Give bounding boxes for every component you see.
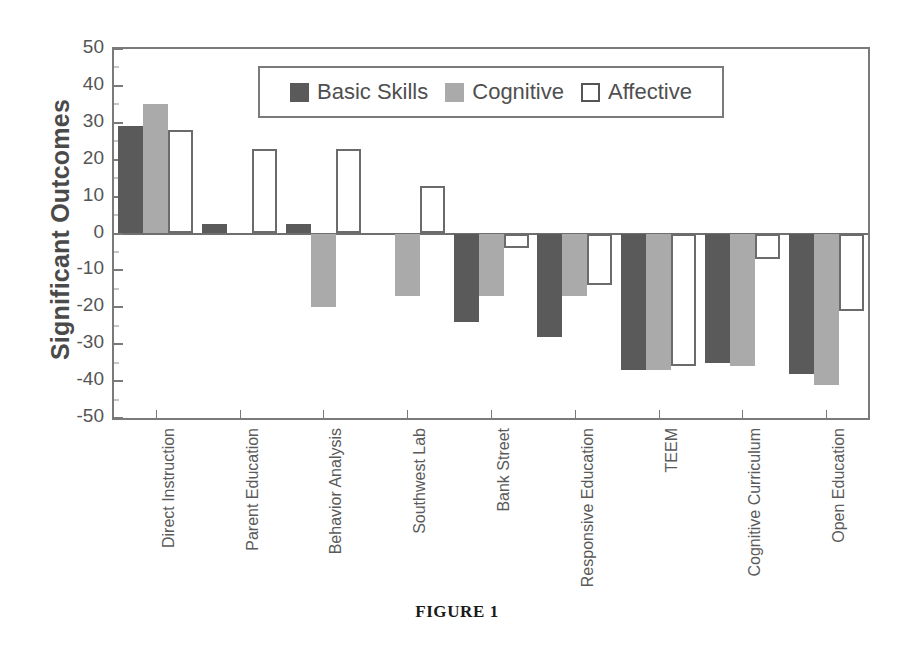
y-tick-mark [114, 85, 123, 87]
bar [336, 149, 361, 234]
y-tick-mark [114, 343, 123, 345]
y-tick-label: 0 [44, 221, 104, 243]
y-minor-tick-mark [114, 288, 119, 289]
y-tick-label: -40 [44, 368, 104, 390]
y-tick-label: 20 [44, 147, 104, 169]
x-category-label: Responsive Education [579, 428, 597, 587]
bar [454, 234, 479, 323]
x-tick-mark [407, 410, 408, 418]
x-tick-mark [156, 410, 157, 418]
y-minor-tick-mark [114, 362, 119, 363]
legend-swatch-cognitive-icon [445, 83, 464, 102]
legend-label-affective: Affective [608, 79, 692, 105]
y-minor-tick-mark [114, 251, 119, 252]
y-tick-label: 50 [44, 36, 104, 58]
x-tick-mark [742, 410, 743, 418]
chart-legend: Basic Skills Cognitive Affective [258, 66, 724, 118]
y-tick-mark [114, 306, 123, 308]
legend-swatch-basic-skills-icon [290, 83, 309, 102]
legend-label-cognitive: Cognitive [472, 79, 564, 105]
y-minor-tick-mark [114, 104, 119, 105]
figure-container: Significant Outcomes 50403020100-10-20-3… [0, 0, 914, 645]
bar [286, 224, 311, 233]
bar [420, 186, 445, 234]
bar [562, 234, 587, 297]
bar [479, 234, 504, 297]
y-minor-tick-mark [114, 399, 119, 400]
x-category-label: Bank Street [495, 428, 513, 512]
x-category-label: Open Education [830, 428, 848, 543]
y-tick-label: 40 [44, 73, 104, 95]
y-tick-label: -10 [44, 257, 104, 279]
x-category-label: Southwest Lab [411, 428, 429, 534]
x-tick-mark [575, 410, 576, 418]
bar [252, 149, 277, 234]
bar [168, 130, 193, 233]
x-tick-mark [491, 410, 492, 418]
y-tick-mark [114, 269, 123, 271]
bar [646, 234, 671, 371]
x-tick-mark [826, 410, 827, 418]
bar [705, 234, 730, 363]
y-tick-mark [114, 48, 123, 50]
x-category-label: Direct Instruction [160, 428, 178, 548]
y-tick-label: 10 [44, 184, 104, 206]
y-tick-mark [114, 122, 123, 124]
y-tick-mark [114, 380, 123, 382]
bar [118, 126, 143, 233]
bar [621, 234, 646, 371]
y-tick-mark [114, 417, 123, 419]
x-tick-mark [659, 410, 660, 418]
x-category-label: Cognitive Curriculum [746, 428, 764, 577]
bar [789, 234, 814, 374]
bar [202, 224, 227, 233]
x-tick-mark [323, 410, 324, 418]
bar [504, 234, 529, 249]
bar [537, 234, 562, 337]
x-category-label: Behavior Analysis [327, 428, 345, 554]
bar [587, 234, 612, 286]
legend-label-basic-skills: Basic Skills [317, 79, 428, 105]
bar [814, 234, 839, 385]
legend-entry-cognitive: Cognitive [445, 79, 564, 105]
y-minor-tick-mark [114, 325, 119, 326]
y-minor-tick-mark [114, 67, 119, 68]
legend-swatch-affective-icon [581, 83, 600, 102]
bar [730, 234, 755, 367]
bar [839, 234, 864, 311]
y-tick-label: -50 [44, 405, 104, 427]
bar [671, 234, 696, 367]
legend-entry-basic-skills: Basic Skills [290, 79, 428, 105]
legend-entry-affective: Affective [581, 79, 692, 105]
x-tick-mark [240, 410, 241, 418]
bar [755, 234, 780, 260]
figure-caption: FIGURE 1 [0, 602, 914, 622]
x-category-label: Parent Education [244, 428, 262, 551]
bar [395, 234, 420, 297]
y-tick-label: 30 [44, 110, 104, 132]
bar [143, 104, 168, 233]
y-tick-label: -20 [44, 294, 104, 316]
x-category-label: TEEM [663, 428, 681, 472]
y-tick-label: -30 [44, 331, 104, 353]
bar [311, 234, 336, 308]
